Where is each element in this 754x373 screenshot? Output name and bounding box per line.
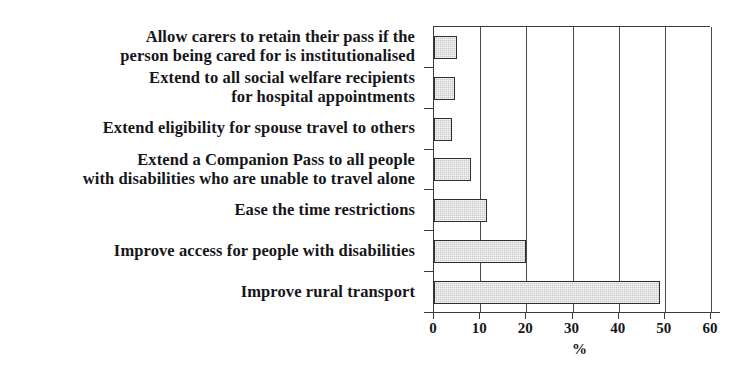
category-label-line: Extend a Companion Pass to all people <box>5 150 415 170</box>
x-axis-tick-label: 10 <box>459 320 499 337</box>
bar-row <box>434 272 660 313</box>
bar-row <box>434 231 526 272</box>
category-label-line: Ease the time restrictions <box>5 200 415 220</box>
y-axis-tick <box>424 230 433 231</box>
category-label-line: Improve rural transport <box>5 282 415 302</box>
x-axis-tick <box>710 312 711 319</box>
bar <box>434 36 457 59</box>
category-label: Extend eligibility for spouse travel to … <box>5 118 415 138</box>
x-axis-tick <box>664 312 665 319</box>
y-axis-tick <box>424 149 433 150</box>
category-label-line: with disabilities who are unable to trav… <box>5 169 415 189</box>
category-label: Allow carers to retain their pass if the… <box>5 27 415 66</box>
gridline <box>619 27 620 313</box>
bar-row <box>434 150 471 191</box>
gridline <box>665 27 666 313</box>
bar-row <box>434 109 452 150</box>
category-label: Ease the time restrictions <box>5 200 415 220</box>
category-label-line: Extend eligibility for spouse travel to … <box>5 118 415 138</box>
bar-row <box>434 27 457 68</box>
category-label-line: for hospital appointments <box>5 87 415 107</box>
bar <box>434 118 452 141</box>
gridline <box>573 27 574 313</box>
x-axis-title: % <box>550 341 610 358</box>
x-axis-tick <box>572 312 573 319</box>
x-axis-tick <box>479 312 480 319</box>
x-axis-tick-label: 50 <box>644 320 684 337</box>
gridline <box>526 27 527 313</box>
x-axis-tick-label: 0 <box>413 320 453 337</box>
y-axis-tick <box>424 189 433 190</box>
bar <box>434 158 471 181</box>
x-axis-tick-label: 60 <box>690 320 730 337</box>
x-axis-tick <box>618 312 619 319</box>
x-axis-tick <box>525 312 526 319</box>
y-axis-tick <box>424 67 433 68</box>
bar <box>434 77 455 100</box>
category-label: Improve rural transport <box>5 282 415 302</box>
category-label-line: Improve access for people with disabilit… <box>5 241 415 261</box>
bar <box>434 199 487 222</box>
category-label-line: person being cared for is institutionali… <box>5 46 415 66</box>
category-label-line: Allow carers to retain their pass if the <box>5 27 415 47</box>
plot-area <box>433 26 710 312</box>
category-label: Improve access for people with disabilit… <box>5 241 415 261</box>
x-axis-tick-label: 30 <box>552 320 592 337</box>
gridline <box>711 27 712 313</box>
y-axis-tick <box>424 271 433 272</box>
bar-row <box>434 68 455 109</box>
bar <box>434 281 660 304</box>
category-label-column: Allow carers to retain their pass if the… <box>0 26 424 312</box>
category-label: Extend to all social welfare recipientsf… <box>5 68 415 107</box>
bar <box>434 240 526 263</box>
y-axis-tick <box>424 108 433 109</box>
bar-row <box>434 190 487 231</box>
x-axis-tick-label: 40 <box>598 320 638 337</box>
category-label-line: Extend to all social welfare recipients <box>5 68 415 88</box>
x-axis-tick <box>433 312 434 319</box>
category-label: Extend a Companion Pass to all peoplewit… <box>5 150 415 189</box>
x-axis-tick-label: 20 <box>505 320 545 337</box>
bar-chart-figure: Allow carers to retain their pass if the… <box>0 0 754 373</box>
